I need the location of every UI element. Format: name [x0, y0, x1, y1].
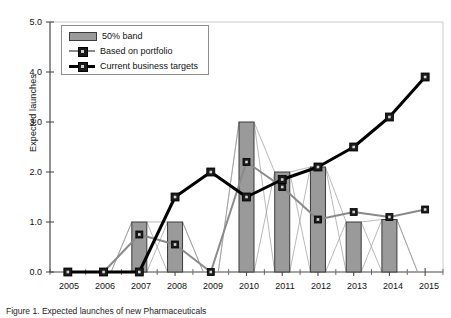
figure-caption: Figure 1. Expected launches of new Pharm… [6, 306, 446, 318]
legend: 50% band Based on portfolio Current busi… [61, 25, 209, 75]
figure: Expected launches 5.0 4.0 3.0 2.0 1.0 0.… [0, 0, 451, 318]
legend-label-band: 50% band [102, 31, 143, 41]
bar-2007 [132, 222, 147, 272]
bar-2013 [346, 222, 361, 272]
band-envelope-lines [111, 122, 418, 272]
portfolio-line-swatch-icon [69, 46, 95, 56]
legend-item-targets: Current business targets [69, 59, 198, 73]
legend-item-band: 50% band [69, 29, 143, 43]
legend-label-portfolio: Based on portfolio [100, 46, 173, 56]
band-swatch-icon [69, 32, 97, 41]
targets-line-swatch-icon [69, 61, 95, 71]
bar-2014 [382, 220, 397, 273]
legend-label-targets: Current business targets [100, 61, 198, 71]
legend-item-portfolio: Based on portfolio [69, 44, 173, 58]
